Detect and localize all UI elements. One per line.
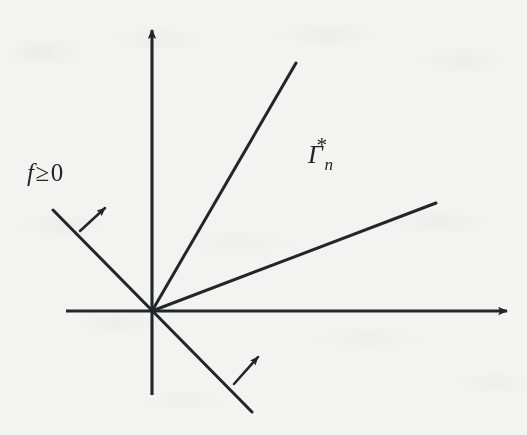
cone-lower-boundary-ray [152,203,436,311]
label-f-value: 0 [51,159,64,186]
label-gamma-star-n: Γ*n [308,142,342,168]
cone-upper-boundary-ray [152,63,296,311]
feasible-direction-arrow-upper [80,208,105,231]
feasible-direction-arrow-lower [234,357,258,384]
cone-diagram-figure: f≥0 Γ*n [0,0,527,435]
gamma-superscript-star: * [316,133,327,157]
label-f-nonneg: f≥0 [27,160,64,185]
gamma-subscript-n: n [325,155,334,174]
label-f-relation: ≥ [34,159,50,186]
diagram-vector-layer [0,0,527,435]
